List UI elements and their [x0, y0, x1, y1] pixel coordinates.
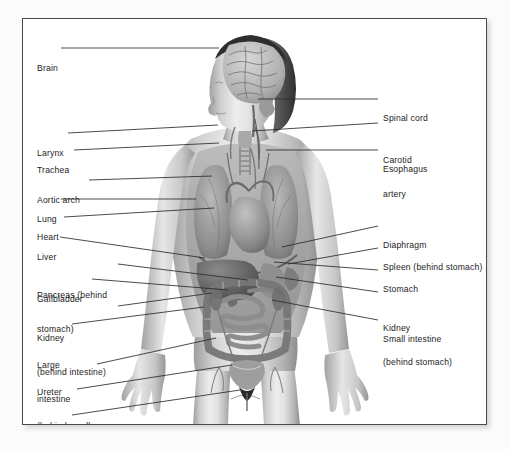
label-carotid-artery[interactable]: Carotid artery [383, 133, 412, 223]
label-kidney-right[interactable]: Kidney (behind stomach) [383, 301, 452, 391]
label-spleen[interactable]: Spleen (behind stomach) [383, 262, 483, 273]
diagram-root: Brain Larynx Trachea Aortic arch Lung He… [0, 0, 511, 449]
larynx-shape [238, 131, 252, 148]
label-trachea[interactable]: Trachea [37, 165, 69, 176]
label-heart[interactable]: Heart [37, 232, 59, 243]
label-esophagus[interactable]: Esophagus [383, 164, 428, 175]
label-larynx[interactable]: Larynx [37, 148, 64, 159]
label-spinal-cord[interactable]: Spinal cord [383, 113, 428, 124]
head-and-neck [208, 35, 296, 144]
figure-panel: Brain Larynx Trachea Aortic arch Lung He… [22, 18, 487, 425]
label-urinary-bladder[interactable]: Urinary bladder [37, 403, 67, 425]
label-brain[interactable]: Brain [37, 63, 58, 74]
label-gallbladder[interactable]: Gallbladder [37, 294, 83, 305]
label-aortic-arch[interactable]: Aortic arch [37, 195, 80, 206]
label-diaphragm[interactable]: Diaphragm [383, 240, 427, 251]
label-small-intestine[interactable]: Small intestine [383, 334, 441, 345]
trachea-shape [240, 147, 250, 175]
urinary-bladder-shape [229, 360, 265, 390]
label-lung[interactable]: Lung [37, 214, 57, 225]
label-liver[interactable]: Liver [37, 252, 57, 263]
label-stomach[interactable]: Stomach [383, 284, 418, 295]
